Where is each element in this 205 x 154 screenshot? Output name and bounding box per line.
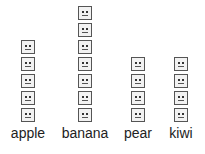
face-icon [21,57,35,71]
column-apple [21,37,35,122]
column-banana [78,3,92,122]
face-icon [78,57,92,71]
face-icon [78,108,92,122]
face-icon [78,23,92,37]
face-icon [78,6,92,20]
column-kiwi [174,54,188,122]
face-icon [21,108,35,122]
category-label-kiwi: kiwi [169,125,192,141]
face-icon [174,108,188,122]
face-icon [131,91,145,105]
face-icon [131,57,145,71]
face-icon [174,57,188,71]
face-icon [78,74,92,88]
face-icon [131,74,145,88]
category-label-apple: apple [11,125,45,141]
face-icon [131,108,145,122]
face-icon [174,74,188,88]
face-icon [78,40,92,54]
face-icon [21,91,35,105]
category-label-pear: pear [124,125,152,141]
face-icon [174,91,188,105]
face-icon [21,74,35,88]
category-label-banana: banana [62,125,109,141]
column-pear [131,54,145,122]
face-icon [78,91,92,105]
face-icon [21,40,35,54]
